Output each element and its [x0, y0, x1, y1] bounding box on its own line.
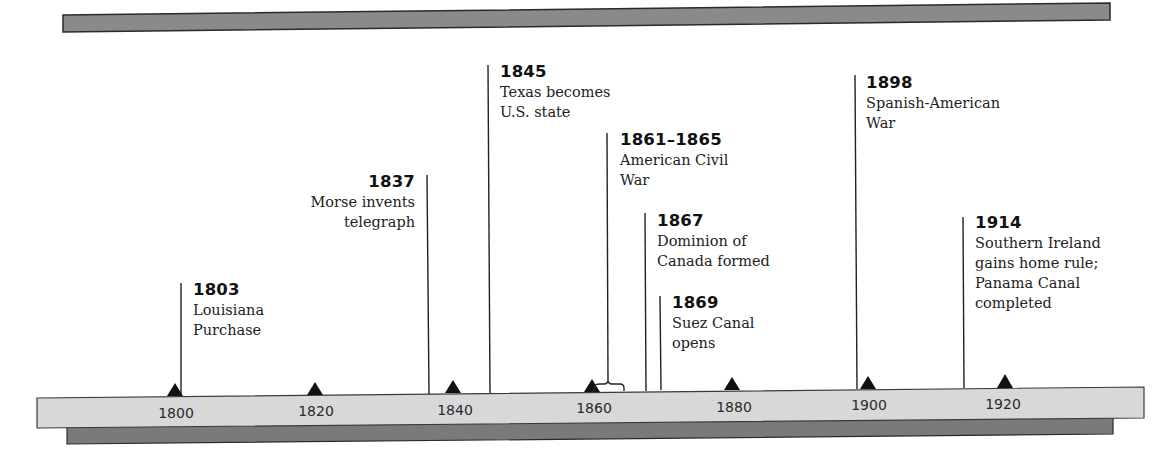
event-year: 1898 [866, 73, 1000, 93]
event-1803: 1803 Louisiana Purchase [193, 280, 264, 340]
tick-triangle-icon [997, 374, 1013, 388]
tick-label-1840: 1840 [437, 402, 473, 418]
tick-label-1920: 1920 [985, 396, 1021, 412]
tick-label-1860: 1860 [576, 400, 612, 416]
event-year: 1869 [672, 293, 754, 313]
top-decorative-bar [63, 3, 1110, 32]
tick-label-1820: 1820 [298, 403, 334, 419]
event-1845: 1845 Texas becomes U.S. state [500, 62, 611, 122]
event-1837: 1837 Morse invents telegraph [290, 172, 415, 232]
event-desc-line: telegraph [290, 212, 415, 232]
event-year: 1914 [975, 213, 1101, 233]
event-desc-line: War [620, 170, 728, 190]
event-line-1845 [488, 65, 490, 393]
event-desc-line: Louisiana [193, 300, 264, 320]
event-line-1861 [607, 133, 608, 380]
event-desc-line: Purchase [193, 320, 264, 340]
event-desc-line: Southern Ireland [975, 233, 1101, 253]
event-year: 1803 [193, 280, 264, 300]
event-line-1914 [963, 217, 964, 388]
event-year: 1867 [657, 211, 770, 231]
event-1914: 1914 Southern Ireland gains home rule; P… [975, 213, 1101, 313]
event-desc-line: Suez Canal [672, 313, 754, 333]
tick-triangle-icon [584, 379, 600, 392]
tick-label-1800: 1800 [158, 405, 194, 421]
event-1898: 1898 Spanish-American War [866, 73, 1000, 133]
event-desc-line: War [866, 113, 1000, 133]
event-desc-line: Canada formed [657, 251, 770, 271]
event-desc-line: opens [672, 333, 754, 353]
event-1867: 1867 Dominion of Canada formed [657, 211, 770, 271]
event-desc-line: Texas becomes [500, 82, 611, 102]
event-1869: 1869 Suez Canal opens [672, 293, 754, 353]
event-year: 1837 [290, 172, 415, 192]
event-line-1867 [645, 213, 646, 391]
event-desc-line: Panama Canal [975, 273, 1101, 293]
event-desc-line: U.S. state [500, 102, 611, 122]
event-line-1837 [427, 175, 429, 394]
event-year: 1845 [500, 62, 611, 82]
event-desc-line: Spanish-American [866, 93, 1000, 113]
tick-label-1900: 1900 [851, 397, 887, 413]
event-line-1898 [855, 75, 857, 389]
tick-label-1880: 1880 [716, 399, 752, 415]
event-desc-line: Dominion of [657, 231, 770, 251]
event-desc-line: completed [975, 293, 1101, 313]
event-desc-line: Morse invents [290, 192, 415, 212]
event-line-1869 [660, 296, 661, 390]
tick-triangle-icon [445, 380, 461, 393]
tick-triangle-icon [724, 377, 740, 390]
event-year: 1861–1865 [620, 130, 728, 150]
event-1861-1865: 1861–1865 American Civil War [620, 130, 728, 190]
civil-war-bracket [595, 380, 624, 391]
tick-triangle-icon [860, 376, 876, 389]
timeline-diagram: 1800 1820 1840 1860 1880 1900 1920 1803 … [0, 0, 1161, 458]
event-desc-line: American Civil [620, 150, 728, 170]
event-desc-line: gains home rule; [975, 253, 1101, 273]
tick-triangle-icon [307, 382, 323, 395]
